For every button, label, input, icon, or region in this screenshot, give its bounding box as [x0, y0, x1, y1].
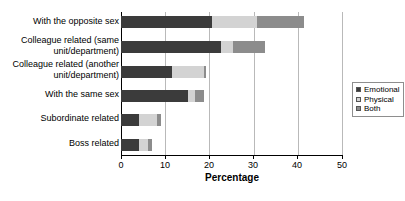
legend-swatch-both [356, 106, 361, 111]
category-label-5: Boss related [0, 138, 119, 149]
x-tick-0 [121, 155, 122, 159]
bar-segment-both [148, 139, 152, 151]
bar-row [121, 66, 206, 78]
category-label-2-line1: Colleague related (another [0, 59, 119, 70]
category-label-3-line1: With the same sex [0, 89, 119, 100]
bar-segment-physical [139, 139, 148, 151]
legend-label-both: Both [364, 104, 380, 114]
stacked-bar-chart: 0 10 20 30 40 50 Percentage With the opp… [0, 0, 405, 201]
legend-item-both: Both [356, 104, 401, 114]
legend-label-physical: Physical [364, 95, 394, 105]
x-tick-50 [342, 155, 343, 159]
x-tick-20 [209, 155, 210, 159]
bar-row [121, 90, 204, 102]
category-label-4-line1: Subordinate related [0, 113, 119, 124]
x-axis-title: Percentage [121, 172, 343, 183]
bar-row [121, 114, 161, 126]
bar-segment-emotional [121, 114, 139, 126]
x-tick-30 [253, 155, 254, 159]
category-label-4: Subordinate related [0, 113, 119, 124]
bar-segment-physical [188, 90, 195, 102]
category-label-0: With the opposite sex [0, 16, 119, 27]
category-label-1-line1: Colleague related (same [0, 35, 119, 46]
bar-segment-emotional [121, 90, 188, 102]
plot-area [121, 12, 342, 155]
bar-segment-physical [172, 66, 204, 78]
bar-row [121, 41, 265, 53]
legend-swatch-emotional [356, 87, 361, 92]
bar-segment-both [233, 41, 264, 53]
bar-segment-emotional [121, 139, 139, 151]
bar-segment-emotional [121, 16, 212, 28]
x-tick-40 [297, 155, 298, 159]
gridline-10 [165, 12, 166, 155]
x-tick-label-50: 50 [327, 160, 357, 171]
gridline-20 [209, 12, 210, 155]
bar-segment-physical [221, 41, 233, 53]
x-tick-label-20: 20 [194, 160, 224, 171]
x-tick-10 [165, 155, 166, 159]
legend-label-emotional: Emotional [364, 85, 400, 95]
bar-segment-both [157, 114, 161, 126]
gridline-30 [254, 12, 255, 155]
gridline-40 [298, 12, 299, 155]
category-label-2: Colleague related (another unit/departme… [0, 59, 119, 80]
legend-item-physical: Physical [356, 95, 401, 105]
legend-item-emotional: Emotional [356, 85, 401, 95]
category-label-1-line2: unit/department) [0, 46, 119, 57]
bar-row [121, 139, 152, 151]
category-label-5-line1: Boss related [0, 138, 119, 149]
bar-segment-both [195, 90, 204, 102]
x-tick-label-10: 10 [150, 160, 180, 171]
bar-segment-emotional [121, 66, 172, 78]
gridline-50 [342, 12, 343, 155]
bar-segment-physical [139, 114, 158, 126]
bar-row [121, 16, 304, 28]
x-tick-label-30: 30 [238, 160, 268, 171]
x-tick-label-40: 40 [282, 160, 312, 171]
category-label-0-line1: With the opposite sex [0, 16, 119, 27]
x-tick-label-0: 0 [106, 160, 136, 171]
bar-segment-both [257, 16, 303, 28]
category-label-1: Colleague related (same unit/department) [0, 35, 119, 56]
bar-segment-physical [212, 16, 257, 28]
category-label-2-line2: unit/department) [0, 70, 119, 81]
bar-segment-both [204, 66, 206, 78]
legend: Emotional Physical Both [352, 82, 404, 117]
legend-swatch-physical [356, 97, 361, 102]
bar-segment-emotional [121, 41, 221, 53]
x-axis-line [121, 155, 343, 156]
category-label-3: With the same sex [0, 89, 119, 100]
